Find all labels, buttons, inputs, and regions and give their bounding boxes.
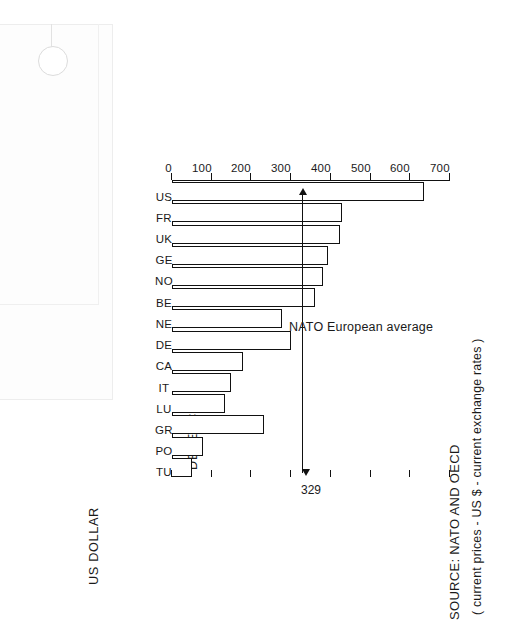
- value-axis-tick: [330, 173, 331, 180]
- average-arrow-down-icon: [299, 188, 307, 195]
- bar: [172, 288, 315, 307]
- value-axis-tick: [370, 173, 371, 180]
- average-value-label: 329: [301, 483, 321, 497]
- punch-hole-guide-line: [51, 24, 52, 48]
- units-note: ( current prices - US $ - current exchan…: [470, 339, 484, 616]
- plot-area: 7006005004003002001000 USFRUKGENOBENEDEC…: [172, 180, 450, 477]
- value-axis-tick: [171, 173, 172, 180]
- bar: [172, 309, 282, 328]
- category-label: IT: [159, 382, 170, 394]
- punch-hole-icon: [38, 46, 68, 76]
- bar: [172, 203, 342, 222]
- category-label: TU: [156, 466, 172, 478]
- category-label: PO: [155, 445, 172, 457]
- category-label: NE: [156, 318, 173, 330]
- category-label: GR: [155, 424, 173, 436]
- value-axis-tick-label: 600: [390, 162, 410, 174]
- category-label: FR: [156, 212, 172, 224]
- category-label: NO: [155, 275, 173, 287]
- value-axis-tick-label: 0: [165, 162, 172, 174]
- bar: [172, 331, 291, 350]
- value-axis-tick: [449, 173, 450, 180]
- value-axis-title: US DOLLAR: [86, 507, 101, 585]
- bar: [172, 458, 192, 477]
- bar: [172, 352, 243, 371]
- value-axis-tick-label: 200: [231, 162, 251, 174]
- value-axis-tick-label: 700: [430, 162, 450, 174]
- category-label: US: [156, 191, 173, 203]
- bar: [172, 246, 328, 265]
- category-label: DE: [156, 339, 173, 351]
- bar-chart: 7006005004003002001000 USFRUKGENOBENEDEC…: [112, 120, 472, 620]
- value-axis-tick: [409, 173, 410, 180]
- bar: [172, 267, 323, 286]
- category-label: LU: [156, 403, 171, 415]
- average-arrow-up-icon: [302, 469, 310, 476]
- value-axis-tick-label: 100: [192, 162, 212, 174]
- category-label: CA: [156, 360, 173, 372]
- value-axis-tick: [290, 173, 291, 180]
- value-axis-tick: [211, 173, 212, 180]
- value-axis-tick-label: 500: [350, 162, 370, 174]
- average-caption-label: NATO European average: [289, 320, 433, 334]
- value-axis-tick-label: 300: [271, 162, 291, 174]
- bar: [172, 394, 225, 413]
- bar: [172, 437, 203, 456]
- scanned-page: DEFENCE US DOLLAR SOURCE: NATO AND OECD …: [0, 0, 508, 632]
- value-axis-tick-label: 400: [311, 162, 331, 174]
- category-label: UK: [156, 233, 173, 245]
- category-label: GE: [155, 254, 172, 266]
- bar: [172, 415, 264, 434]
- category-label: BE: [156, 297, 172, 309]
- value-axis-tick: [250, 173, 251, 180]
- bar: [172, 225, 340, 244]
- bar: [172, 373, 231, 392]
